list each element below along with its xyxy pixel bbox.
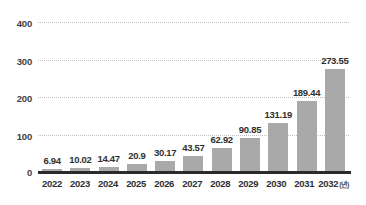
y-tick-label-100: 100 [17, 130, 32, 141]
bar-slot: 90.85 [236, 22, 264, 172]
x-axis-tick-label: 2028 [206, 178, 234, 189]
bar[interactable] [183, 156, 203, 172]
bar-slot: 14.47 [95, 22, 123, 172]
bar-value-label: 10.02 [69, 154, 91, 165]
bar-series: 6.9410.0214.4720.930.1743.5762.9290.8513… [38, 22, 349, 172]
bar-value-label: 14.47 [98, 153, 120, 164]
bar[interactable] [297, 101, 317, 172]
y-tick-label-400: 400 [17, 18, 32, 29]
x-axis-tick-label: 2029 [234, 178, 262, 189]
bar-value-label: 6.94 [43, 155, 60, 166]
x-axis-tick-label: 2022 [38, 178, 66, 189]
x-axis-tick-label: 2026 [150, 178, 178, 189]
bar-value-label: 189.44 [293, 87, 320, 98]
bar-slot: 273.55 [321, 22, 349, 172]
bar-slot: 62.92 [208, 22, 236, 172]
x-axis-unit-label: (년) [339, 181, 349, 188]
bar-value-label: 30.17 [154, 147, 176, 158]
x-axis-tick-label: 2030 [262, 178, 290, 189]
y-tick-label-0: 0 [27, 167, 32, 178]
x-axis-labels: 2022202320242025202620272028202920302031… [38, 178, 349, 189]
y-tick-label-200: 200 [17, 93, 32, 104]
bar-slot: 6.94 [38, 22, 66, 172]
bar-value-label: 20.9 [128, 150, 145, 161]
bar-value-label: 131.19 [265, 109, 292, 120]
bar-chart: 400 300 200 100 0 6.9410.0214.4720.930.1… [0, 0, 366, 205]
bar-value-label: 62.92 [211, 134, 233, 145]
bar-value-label: 90.85 [239, 124, 261, 135]
x-axis-tick-label: 2023 [66, 178, 94, 189]
bar-slot: 10.02 [66, 22, 94, 172]
bar-slot: 189.44 [292, 22, 320, 172]
bar[interactable] [212, 148, 232, 172]
x-axis-line [38, 171, 351, 174]
x-axis-tick-label: 2025 [122, 178, 150, 189]
x-axis-tick-label: 2031 [290, 178, 318, 189]
bar-slot: 30.17 [151, 22, 179, 172]
bar[interactable] [325, 69, 345, 172]
x-axis-tick-label: 2032(년) [318, 178, 349, 189]
bar-slot: 20.9 [123, 22, 151, 172]
bar[interactable] [240, 138, 260, 172]
bar[interactable] [268, 123, 288, 172]
y-tick-label-300: 300 [17, 55, 32, 66]
bar-slot: 131.19 [264, 22, 292, 172]
x-axis-tick-label: 2027 [178, 178, 206, 189]
bar-value-label: 43.57 [182, 142, 204, 153]
bar-slot: 43.57 [179, 22, 207, 172]
x-axis-tick-label: 2024 [94, 178, 122, 189]
bar-value-label: 273.55 [321, 55, 348, 66]
